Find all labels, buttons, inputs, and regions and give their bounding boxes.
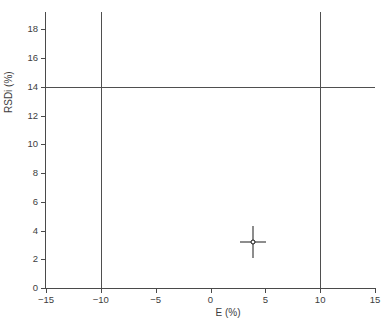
y-axis-tick-label: 18 [27,25,38,35]
x-axis-tick [375,288,376,293]
x-axis-tick-label: 0 [208,295,213,305]
y-axis-tick-label: 2 [33,255,38,265]
y-axis-tick [41,202,46,203]
plot-area: 024681012141618−15−10−5051015 [46,12,375,288]
y-axis-label: RSDi (%) [3,71,14,113]
y-axis-tick-label: 16 [27,53,38,63]
x-axis-tick-label: −5 [150,295,161,305]
y-axis-tick [41,58,46,59]
acceptance-limit-lower-E [101,12,102,288]
x-axis-label-wrap: E (%) [0,307,392,318]
y-axis-tick [41,144,46,145]
x-axis-label: E (%) [216,307,241,318]
y-axis-tick [41,116,46,117]
y-axis-tick [41,231,46,232]
x-axis-tick-label: 10 [315,295,326,305]
chart-figure: RSDi (%) 024681012141618−15−10−5051015 E… [0,0,392,329]
y-axis-tick [41,29,46,30]
x-axis-tick-label: −10 [93,295,109,305]
x-axis-tick [320,288,321,293]
y-axis-tick-label: 6 [33,197,38,207]
y-axis-tick-label: 12 [27,111,38,121]
x-axis-tick [46,288,47,293]
acceptance-limit-rsdi [46,87,375,88]
x-axis-tick-label: −15 [38,295,54,305]
x-axis-tick-label: 5 [263,295,268,305]
y-axis-tick-label: 8 [33,168,38,178]
y-axis-tick [41,173,46,174]
x-axis-tick [265,288,266,293]
y-axis-tick-label: 10 [27,140,38,150]
x-axis-tick-label: 15 [370,295,381,305]
x-axis-tick [156,288,157,293]
data-point-marker [251,240,256,245]
y-axis-tick-label: 14 [27,82,38,92]
y-axis-tick-label: 4 [33,226,38,236]
y-axis-tick [41,259,46,260]
acceptance-limit-upper-E [320,12,321,288]
x-axis-tick [101,288,102,293]
y-axis-tick-label: 0 [33,283,38,293]
x-axis-tick [211,288,212,293]
